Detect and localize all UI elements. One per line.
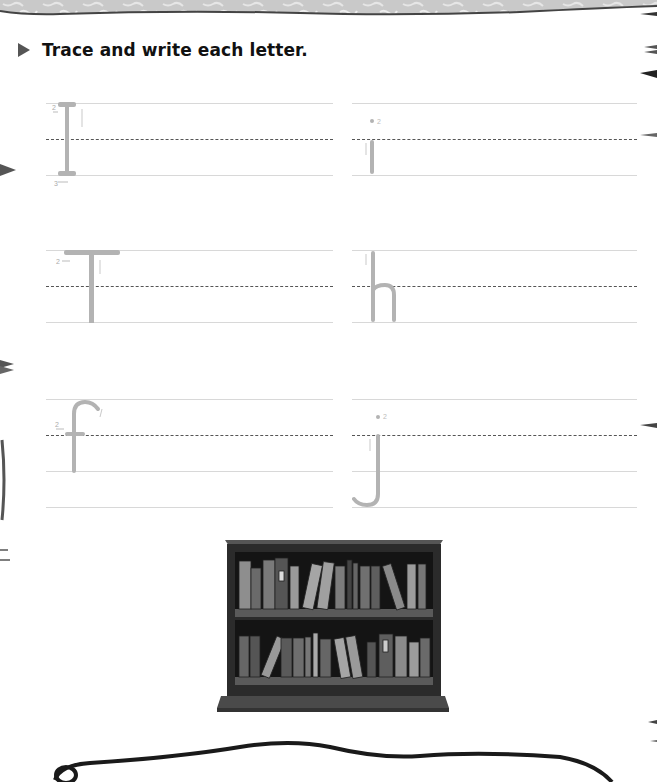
practice-area-h[interactable] <box>352 250 637 325</box>
bookcase-illustration <box>217 536 449 714</box>
practice-area-I[interactable]: 2 3 <box>46 103 333 178</box>
svg-text:2: 2 <box>55 421 59 428</box>
descender-line <box>46 507 333 508</box>
rope-border-decoration <box>0 735 657 782</box>
trace-letter-j: 2 <box>352 399 402 511</box>
triangle-right-icon <box>18 43 30 57</box>
trace-letter-f: 2 <box>46 399 126 479</box>
svg-text:3: 3 <box>54 180 58 187</box>
trace-letter-T: 2 <box>46 250 126 330</box>
instruction-text: Trace and write each letter. <box>42 40 308 60</box>
svg-text:2: 2 <box>56 258 60 265</box>
practice-area-i[interactable]: 2 <box>352 103 637 178</box>
left-edge-decoration <box>0 150 20 590</box>
practice-area-f[interactable]: 2 <box>46 399 333 511</box>
svg-text:2: 2 <box>383 413 387 420</box>
practice-area-T[interactable]: 2 <box>46 250 333 325</box>
right-edge-decoration <box>640 0 657 782</box>
svg-text:2: 2 <box>377 118 381 125</box>
trace-letter-I: 2 3 <box>46 99 106 189</box>
svg-text:2: 2 <box>52 104 56 111</box>
trace-letter-i: 2 <box>352 103 402 183</box>
practice-area-j[interactable]: 2 <box>352 399 637 511</box>
instruction: Trace and write each letter. <box>18 40 308 60</box>
header-decorative-band <box>0 0 657 20</box>
trace-letter-h <box>352 250 402 330</box>
